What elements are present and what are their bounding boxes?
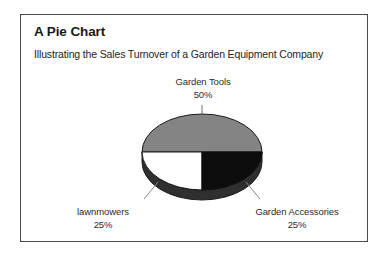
- pie-label-lawnmowers-value: 25%: [48, 218, 158, 231]
- leader-line-lawnmowers: [144, 182, 158, 199]
- pie-slice-garden-tools: [142, 114, 262, 152]
- pie-label-garden-accessories-name: Garden Accessories: [232, 205, 362, 218]
- pie-label-garden-tools-name: Garden Tools: [148, 75, 258, 88]
- pie-label-garden-tools-value: 50%: [148, 88, 258, 101]
- pie-chart-graphic: [130, 100, 280, 210]
- leader-line-garden-accessories: [246, 182, 260, 199]
- page-title: A Pie Chart: [34, 24, 105, 39]
- chart-subtitle: Illustrating the Sales Turnover of a Gar…: [34, 48, 323, 60]
- pie-label-garden-accessories: Garden Accessories 25%: [232, 205, 362, 231]
- pie-slice-lawnmowers: [142, 152, 202, 190]
- pie-label-lawnmowers: lawnmowers 25%: [48, 205, 158, 231]
- pie-slice-garden-accessories: [202, 152, 262, 190]
- chart-page: A Pie Chart Illustrating the Sales Turno…: [0, 0, 389, 257]
- pie-label-lawnmowers-name: lawnmowers: [48, 205, 158, 218]
- pie-label-garden-tools: Garden Tools 50%: [148, 75, 258, 101]
- pie-label-garden-accessories-value: 25%: [232, 218, 362, 231]
